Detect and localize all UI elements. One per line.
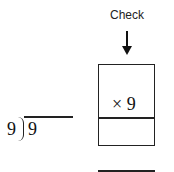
dividend: 9 xyxy=(28,119,37,140)
answer-line xyxy=(98,170,155,172)
quotient-line xyxy=(24,116,73,118)
long-division-bracket xyxy=(18,117,24,141)
check-label: Check xyxy=(106,8,148,22)
divisor: 9 xyxy=(7,119,16,140)
down-arrow-head-icon xyxy=(122,46,132,55)
multiplier-text: × 9 xyxy=(112,94,136,115)
box-divider xyxy=(98,117,155,119)
